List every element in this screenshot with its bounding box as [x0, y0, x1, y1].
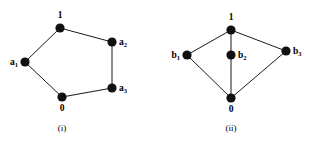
vertex-label: 1 — [229, 12, 234, 22]
graph-edge — [187, 30, 231, 55]
vertex-label: b1 — [171, 50, 180, 61]
vertex-label: 0 — [60, 103, 65, 113]
graph-vertex — [226, 50, 235, 59]
graph-edge — [231, 30, 286, 51]
vertex-label: a3 — [119, 83, 128, 94]
graph-canvas: 1a2a30a11b1b2b30 (i)(ii) — [0, 0, 325, 147]
edges-layer — [25, 28, 286, 98]
vertex-labels-layer: 1a2a30a11b1b2b30 — [10, 10, 302, 114]
vertex-label: 0 — [229, 104, 234, 114]
panel-captions-layer: (i)(ii) — [58, 123, 237, 133]
graph-edge — [62, 88, 112, 97]
vertex-label-subscript: 2 — [243, 54, 246, 61]
vertex-label-subscript: 1 — [177, 54, 180, 61]
graph-vertex — [20, 57, 29, 66]
graph-edge — [25, 28, 60, 62]
vertex-label: 1 — [58, 10, 63, 20]
graph-vertex — [182, 50, 191, 59]
graph-vertex — [107, 37, 116, 46]
graph-vertex — [55, 23, 64, 32]
vertex-label: b2 — [238, 50, 247, 61]
graph-edge — [60, 28, 112, 42]
vertex-label-subscript: 3 — [298, 50, 302, 57]
graph-edge — [187, 55, 231, 98]
vertex-label: b3 — [293, 46, 302, 57]
graph-vertex — [226, 93, 235, 102]
vertex-label-subscript: 2 — [124, 41, 127, 48]
vertex-label-subscript: 3 — [124, 87, 128, 94]
graph-vertex — [57, 92, 66, 101]
graph-edge — [25, 62, 62, 97]
panel-caption: (ii) — [226, 123, 237, 133]
panel-caption: (i) — [58, 123, 67, 133]
vertex-label: a2 — [119, 37, 127, 48]
graph-vertex — [107, 83, 116, 92]
graph-figure: 1a2a30a11b1b2b30 (i)(ii) — [0, 0, 325, 147]
vertices-layer — [20, 23, 290, 102]
graph-vertex — [281, 46, 290, 55]
vertex-label: a1 — [10, 57, 18, 68]
vertex-label-subscript: 1 — [15, 61, 18, 68]
graph-vertex — [226, 25, 235, 34]
